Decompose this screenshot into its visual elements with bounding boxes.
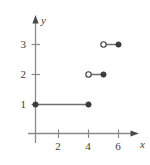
- step-function-figure: 3 2 1 2 4 6 y x: [0, 0, 150, 165]
- closed-endpoint-x6-y3: [116, 42, 121, 47]
- y-tick-label-1: 1: [14, 99, 26, 110]
- step-segment-y2: [86, 72, 106, 77]
- step-segment-y1: [33, 102, 91, 107]
- closed-endpoint-x5-y2: [101, 72, 106, 77]
- y-axis-label: y: [41, 15, 46, 26]
- step-segment-y3: [101, 42, 121, 47]
- x-axis-label: x: [140, 139, 145, 150]
- y-tick-label-2: 2: [14, 69, 26, 80]
- y-axis-arrow-icon: [32, 15, 38, 24]
- x-axis-arrow-icon: [131, 130, 140, 136]
- x-tick-label-2: 2: [52, 141, 64, 152]
- open-endpoint-x4-y2: [86, 72, 91, 77]
- plot-area: [0, 0, 150, 165]
- closed-endpoint-x4-y1: [86, 102, 91, 107]
- open-endpoint-x5-y3: [101, 42, 106, 47]
- closed-endpoint-x0-y1: [33, 102, 38, 107]
- x-tick-label-4: 4: [82, 141, 94, 152]
- x-tick-label-6: 6: [112, 141, 124, 152]
- axis-lines: [28, 15, 139, 143]
- y-tick-label-3: 3: [14, 39, 26, 50]
